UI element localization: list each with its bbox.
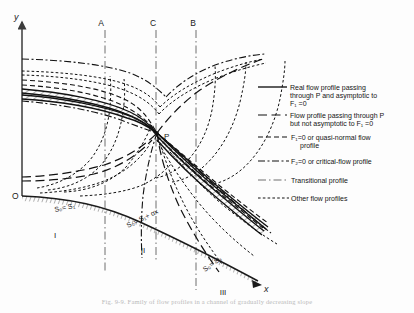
y-axis-label: y (13, 12, 19, 22)
station-label-a: A (98, 18, 104, 28)
legend-label-quasi-normal-flow-profile-line2: profile (300, 142, 319, 150)
legend-item-non-asymptotic-profile: Flow profile passing through P but not a… (258, 112, 384, 128)
legend-label-non-asymptotic-profile-line2: but not asymptotic to F₁ =0 (290, 120, 373, 128)
region-labels: I II III (54, 231, 226, 297)
station-labels: A C B (98, 18, 196, 28)
legend-label-real-flow-profile-line3: F₁ =0 (290, 100, 307, 107)
region-label-1: I (54, 231, 56, 240)
figure-root: P y x O A C B I II III S₀= S₁ S₀= S₁+ αx… (0, 0, 414, 313)
legend-item-quasi-normal-flow-profile: F₁=0 or quasi-normal flow profile (258, 134, 372, 150)
region-label-3: III (220, 288, 227, 297)
region-label-2: II (141, 246, 145, 255)
longdash-profile-lower-right (157, 133, 219, 272)
station-label-c: C (150, 18, 156, 28)
f1-zero-profile-lower (157, 133, 268, 223)
f2-zero-profile-vertical-branch (141, 133, 157, 258)
legend-label-real-flow-profile-line2: through P and asymptotic to (290, 92, 377, 100)
legend: Real flow profile passing through P and … (258, 84, 384, 203)
legend-item-real-flow-profile: Real flow profile passing through P and … (258, 84, 377, 107)
point-p-label: P (164, 132, 169, 141)
legend-label-critical-flow-profile-line1: F₂=0 or critical-flow profile (291, 158, 372, 166)
longdash-profile-lower-left2 (22, 140, 152, 181)
x-axis-label: x (263, 284, 269, 294)
legend-label-other-flow-profiles-line1: Other flow profiles (291, 195, 348, 203)
station-label-b: B (190, 18, 196, 28)
legend-item-other-flow-profiles: Other flow profiles (258, 195, 348, 203)
flow-profile-diagram: P y x O A C B I II III S₀= S₁ S₀= S₁+ αx… (0, 0, 414, 313)
legend-label-non-asymptotic-profile-line1: Flow profile passing through P (290, 112, 384, 120)
longdash-profile-upper-right (157, 59, 263, 133)
other-flow-profiles (22, 59, 285, 264)
legend-item-transitional-profile: Transitional profile (258, 177, 348, 185)
origin-label: O (12, 191, 19, 201)
legend-label-transitional-profile-line1: Transitional profile (291, 177, 348, 185)
point-p-marker (155, 131, 159, 135)
figure-caption: Fig. 9-9. Family of flow profiles in a c… (0, 298, 414, 305)
legend-label-real-flow-profile-line1: Real flow profile passing (290, 84, 366, 92)
legend-label-quasi-normal-flow-profile-line1: F₁=0 or quasi-normal flow (291, 134, 372, 142)
other-profile-right-down (157, 133, 222, 264)
f2-zero-profile-upper-right (166, 54, 265, 97)
non-asymptotic-profiles (22, 59, 263, 272)
slope-labels: S₀= S₁ S₀= S₁+ αx S₀= S₃ (54, 202, 223, 273)
legend-item-critical-flow-profile: F₂=0 or critical-flow profile (258, 158, 372, 166)
longdash-profile-lower-left (22, 133, 157, 177)
other-profile-right-branch3 (214, 61, 285, 184)
